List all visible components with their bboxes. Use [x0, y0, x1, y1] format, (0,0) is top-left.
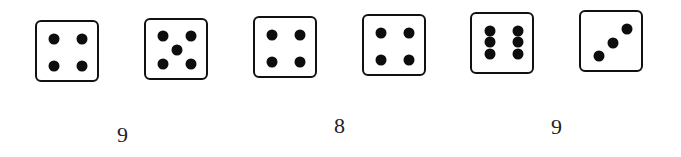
die-face-4-icon — [35, 20, 99, 82]
pip-dot — [267, 30, 278, 41]
pip-dot — [622, 24, 633, 35]
pip-dot — [376, 28, 387, 39]
pip-dot — [295, 57, 306, 68]
pair-sum-3: 9 — [551, 116, 562, 138]
pip-dot — [513, 49, 524, 60]
pip-dot — [267, 57, 278, 68]
die-face-4-icon — [362, 14, 426, 76]
die-face-6-icon — [470, 12, 534, 74]
pip-dot — [513, 26, 524, 37]
pip-dot — [158, 59, 169, 70]
pip-dot — [594, 51, 605, 62]
pip-dot — [77, 61, 88, 72]
pip-dot — [158, 31, 169, 42]
pip-dot — [608, 38, 619, 49]
pip-dot — [404, 55, 415, 66]
pair-sum-1: 9 — [117, 124, 128, 146]
die-face-5-icon — [144, 18, 208, 80]
pip-dot — [49, 34, 60, 45]
pip-dot — [485, 26, 496, 37]
pip-dot — [77, 34, 88, 45]
pip-dot — [186, 59, 197, 70]
pair-sum-2: 8 — [334, 115, 345, 137]
die-face-4-icon — [253, 16, 317, 78]
pip-dot — [186, 31, 197, 42]
pip-dot — [295, 30, 306, 41]
dice-sum-diagram: 9 8 9 — [0, 0, 681, 157]
pip-dot — [485, 37, 496, 48]
pip-dot — [172, 45, 183, 56]
pip-dot — [485, 49, 496, 60]
pip-dot — [376, 55, 387, 66]
pip-dot — [49, 61, 60, 72]
pip-dot — [404, 28, 415, 39]
pip-dot — [513, 37, 524, 48]
die-face-3-icon — [579, 10, 643, 72]
